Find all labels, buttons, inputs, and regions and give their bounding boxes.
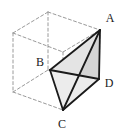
cube-edge-bot-left-back: [13, 70, 48, 92]
cube-edge-top-left-front: [13, 33, 63, 52]
vertex-label-A: A: [106, 11, 115, 25]
cube-edge-bot-left-front: [13, 92, 63, 110]
edge-AD: [99, 30, 100, 79]
geometry-figure: A B C D: [0, 0, 122, 131]
cube-edge-top-back-right: [48, 12, 100, 30]
tetrahedron-faces: [50, 30, 100, 110]
geometry-canvas: A B C D: [0, 0, 122, 131]
vertex-label-C: C: [58, 117, 66, 131]
cube-edge-top-left-back: [13, 12, 48, 33]
vertex-label-B: B: [36, 55, 44, 69]
vertex-label-D: D: [105, 76, 114, 90]
